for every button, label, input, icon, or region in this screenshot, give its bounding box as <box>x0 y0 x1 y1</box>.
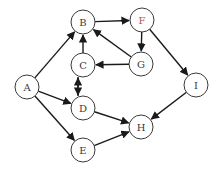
node-b: B <box>71 10 95 34</box>
edge-g-to-c <box>96 64 129 65</box>
node-label: H <box>137 122 146 133</box>
node-label: E <box>79 145 86 156</box>
node-label: D <box>79 103 87 114</box>
node-label: I <box>194 80 198 91</box>
node-d: D <box>71 96 95 120</box>
edge-f-to-i <box>150 29 188 75</box>
node-i: I <box>184 73 208 97</box>
edge-b-to-f <box>95 20 129 21</box>
edges-layer <box>35 20 188 145</box>
node-h: H <box>129 115 153 139</box>
edge-i-to-h <box>151 92 186 119</box>
node-e: E <box>71 138 95 162</box>
node-a: A <box>15 75 39 99</box>
node-label: B <box>79 17 86 28</box>
node-label: C <box>79 60 87 71</box>
edge-e-to-h <box>94 132 129 146</box>
node-c: C <box>71 53 95 77</box>
node-label: G <box>137 59 145 70</box>
edge-a-to-d <box>38 91 71 103</box>
node-label: F <box>139 15 146 26</box>
node-g: G <box>129 52 153 76</box>
directed-graph: ABFCGDIHE <box>0 0 216 171</box>
node-label: A <box>22 82 31 93</box>
edge-d-to-h <box>94 112 128 123</box>
edge-g-to-b <box>94 30 132 57</box>
edge-a-to-b <box>35 32 75 78</box>
node-f: F <box>130 8 154 32</box>
